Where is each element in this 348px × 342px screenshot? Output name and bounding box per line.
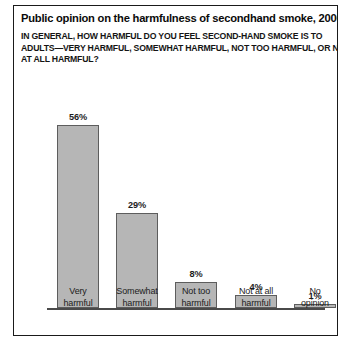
bar-value-label: 29%	[106, 200, 168, 210]
plot-area: 56% Very harmful 29% Somewhat harmful 8%…	[14, 76, 337, 335]
bar-slot: 4% Not at all harmful	[225, 103, 287, 308]
bar-slot: 1% No opinion	[284, 103, 338, 308]
subtitle-line: ADULTS—VERY HARMFUL, SOMEWHAT HARMFUL, N…	[21, 43, 319, 55]
bar-very-harmful	[57, 125, 99, 308]
chart-figure: Public opinion on the harmfulness of sec…	[13, 5, 338, 336]
chart-title: Public opinion on the harmfulness of sec…	[21, 11, 322, 24]
bar-value-label: 8%	[165, 269, 227, 279]
bar-slot: 29% Somewhat harmful	[106, 103, 168, 308]
bar-slot: 56% Very harmful	[47, 103, 109, 308]
chart-subtitle: IN GENERAL, HOW HARMFUL DO YOU FEEL SECO…	[21, 31, 319, 66]
subtitle-line: IN GENERAL, HOW HARMFUL DO YOU FEEL SECO…	[21, 31, 319, 43]
bar-slot: 8% Not too harmful	[165, 103, 227, 308]
category-label-no-opinion: No opinion	[280, 286, 338, 309]
bar-value-label: 56%	[47, 112, 109, 122]
subtitle-line: AT ALL HARMFUL?	[21, 54, 319, 66]
